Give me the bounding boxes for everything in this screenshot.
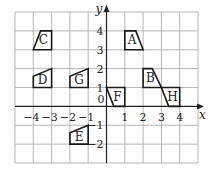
shape-c: C bbox=[33, 31, 51, 50]
x-tick-label: −2 bbox=[60, 111, 76, 124]
origin-label: 0 bbox=[98, 93, 105, 106]
y-tick-label: 4 bbox=[97, 25, 104, 38]
shape-label: H bbox=[167, 90, 177, 104]
shape-label: F bbox=[113, 90, 121, 104]
shape-g: G bbox=[70, 69, 88, 88]
y-tick-label: 2 bbox=[97, 63, 104, 76]
y-tick-label: −2 bbox=[87, 138, 103, 151]
shape-f: F bbox=[107, 88, 125, 107]
y-axis-label: y bbox=[95, 2, 103, 16]
shape-b: B bbox=[143, 69, 161, 88]
x-tick-label: 2 bbox=[140, 111, 147, 124]
coordinate-grid: xy 0−4−3−2−112344321−1−2 ABCDEFGH bbox=[0, 0, 208, 169]
x-tick-label: 3 bbox=[158, 111, 165, 124]
shape-label: C bbox=[39, 33, 48, 47]
shape-label: E bbox=[75, 130, 84, 144]
x-axis-label: x bbox=[199, 108, 206, 122]
x-tick-label: 4 bbox=[176, 111, 183, 124]
y-tick-label: 1 bbox=[97, 82, 104, 95]
shape-label: G bbox=[74, 73, 84, 87]
shape-d: D bbox=[33, 69, 51, 88]
x-tick-label: −4 bbox=[23, 111, 39, 124]
y-axis-arrow-icon bbox=[104, 5, 110, 12]
shape-label: A bbox=[127, 33, 137, 47]
shape-label: B bbox=[146, 71, 155, 85]
shape-e: E bbox=[70, 125, 88, 144]
y-tick-label: 3 bbox=[97, 44, 104, 57]
shape-h: H bbox=[161, 88, 179, 107]
x-tick-label: 1 bbox=[121, 111, 128, 124]
shape-a: A bbox=[125, 31, 143, 50]
y-tick-label: −1 bbox=[87, 119, 103, 132]
x-tick-label: −3 bbox=[41, 111, 57, 124]
shape-label: D bbox=[38, 73, 48, 87]
